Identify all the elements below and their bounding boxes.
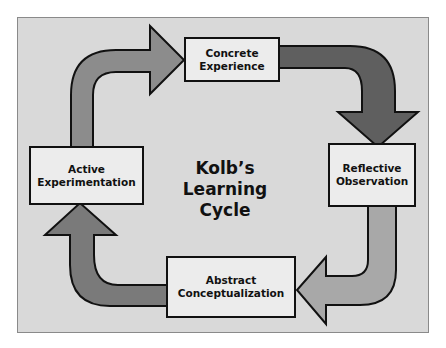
- stage-concrete-experience: Concrete Experience: [184, 37, 280, 82]
- arrow-abstract-to-active: [45, 203, 168, 306]
- stage-reflective-observation: Reflective Observation: [328, 143, 416, 207]
- title-line-2: Learning Cycle: [168, 179, 282, 221]
- stage-label: Observation: [336, 175, 408, 188]
- diagram-title: Kolb’s Learning Cycle: [168, 158, 282, 221]
- stage-abstract-conceptualization: Abstract Conceptualization: [166, 256, 296, 318]
- arrow-active-to-concrete: [71, 26, 184, 148]
- stage-label: Reflective: [343, 162, 402, 175]
- arrow-reflective-to-abstract: [297, 206, 396, 324]
- stage-label: Concrete: [205, 47, 258, 60]
- stage-label: Conceptualization: [178, 287, 285, 300]
- stage-label: Experience: [199, 60, 264, 73]
- stage-label: Abstract: [206, 274, 256, 287]
- stage-label: Experimentation: [37, 176, 135, 189]
- title-line-1: Kolb’s: [168, 158, 282, 179]
- stage-active-experimentation: Active Experimentation: [29, 146, 144, 205]
- arrow-concrete-to-reflective: [278, 46, 418, 147]
- stage-label: Active: [68, 163, 105, 176]
